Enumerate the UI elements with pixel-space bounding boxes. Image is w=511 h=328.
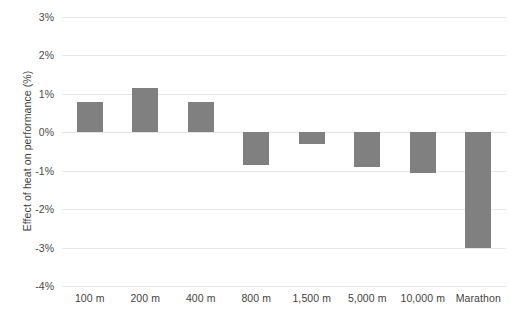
gridline <box>62 55 506 56</box>
bar <box>77 102 103 133</box>
bar <box>354 132 380 167</box>
y-axis-tick-label: 1% <box>8 88 54 100</box>
x-axis-tick-label: 800 m <box>241 292 271 304</box>
x-axis-tick-label: 200 m <box>130 292 160 304</box>
bar <box>188 102 214 133</box>
gridline <box>62 286 506 287</box>
x-axis-tick-label: 1,500 m <box>292 292 331 304</box>
x-axis-tick-label: 10,000 m <box>400 292 445 304</box>
y-axis-tick-label: 0% <box>8 126 54 138</box>
x-axis-tick-label: 100 m <box>75 292 105 304</box>
bar <box>243 132 269 165</box>
y-axis-tick-label: 2% <box>8 49 54 61</box>
y-axis-tick-label: -1% <box>8 165 54 177</box>
plot-area <box>62 17 506 286</box>
y-axis-tick-label: -2% <box>8 203 54 215</box>
y-axis-tick-label: -3% <box>8 242 54 254</box>
x-axis-tick-labels: 100 m200 m400 m800 m1,500 m5,000 m10,000… <box>62 292 506 312</box>
bar <box>465 132 491 247</box>
x-axis-tick-label: Marathon <box>456 292 501 304</box>
bar <box>132 88 158 132</box>
gridline <box>62 94 506 95</box>
bar-chart: Effect of heat on performance (%) 3%2%1%… <box>0 0 511 328</box>
gridline <box>62 17 506 18</box>
bar <box>410 132 436 172</box>
y-axis-tick-label: -4% <box>8 280 54 292</box>
gridline <box>62 248 506 249</box>
y-axis-tick-labels: 3%2%1%0%-1%-2%-3%-4% <box>0 17 54 286</box>
x-axis-tick-label: 5,000 m <box>348 292 387 304</box>
gridline <box>62 132 506 133</box>
x-axis-tick-label: 400 m <box>186 292 216 304</box>
y-axis-tick-label: 3% <box>8 11 54 23</box>
gridline <box>62 171 506 172</box>
bar <box>299 132 325 144</box>
gridline <box>62 209 506 210</box>
